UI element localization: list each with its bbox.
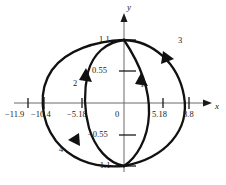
x-axis-arrowhead <box>203 100 212 107</box>
y-tick-label-minus-1-1: −1.1 <box>95 161 110 170</box>
plot-canvas <box>0 0 226 185</box>
y-axis-label: y <box>127 3 131 12</box>
x-tick-label-zero: 0 <box>115 110 119 119</box>
branch-label-4: 4 <box>59 145 63 154</box>
x-tick-label-minus-5-18: −5.18 <box>67 110 87 119</box>
x-tick-label-8-8: 8.8 <box>183 110 194 119</box>
branch-label-2: 2 <box>73 79 77 88</box>
y-tick-label-minus-0-55: −0.55 <box>88 130 108 139</box>
direction-arrowheads <box>68 51 174 146</box>
branch-label-1: 1 <box>140 80 144 89</box>
x-tick-label-minus-10-4: −10.4 <box>31 110 51 119</box>
parametric-curve-figure: x y −11.9 −10.4 −5.18 0 5.18 8.8 1.1 0.5… <box>0 0 226 185</box>
x-tick-label-minus-11-9: −11.9 <box>5 110 24 119</box>
branch-2-arrowhead <box>79 68 92 82</box>
branch-4-arrowhead <box>68 133 80 146</box>
y-axis-arrowhead <box>121 13 128 22</box>
branch-label-3: 3 <box>178 36 182 45</box>
y-tick-label-0-55: 0.55 <box>92 66 107 75</box>
x-axis-label: x <box>215 102 219 111</box>
y-tick-label-1-1: 1.1 <box>99 35 110 44</box>
x-tick-label-5-18: 5.18 <box>152 110 167 119</box>
